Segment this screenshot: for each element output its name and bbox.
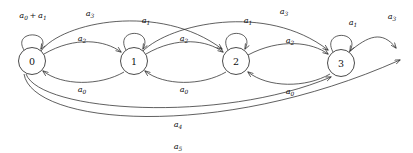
state-node-2[interactable]: 2 xyxy=(223,48,250,75)
self-loop-label-state-3: a1 xyxy=(349,17,358,28)
transition-label-0-to-2: a3 xyxy=(86,8,95,19)
state-label-0: 0 xyxy=(29,56,35,67)
exit-arrow-state-3-a3 xyxy=(349,37,396,52)
exit-label-state-3-a3: a3 xyxy=(388,11,397,22)
state-node-3[interactable]: 3 xyxy=(328,50,355,77)
self-loop-label-state-1: a1 xyxy=(142,15,151,26)
state-label-3: 3 xyxy=(338,58,344,69)
self-loop-label-state-0: a0 + a1 xyxy=(19,10,46,21)
transition-0-to-2 xyxy=(41,21,222,51)
transition-label-1-to-3: a3 xyxy=(280,6,289,17)
transition-2-to-1 xyxy=(145,71,226,82)
transition-label-1-to-0: a0 xyxy=(78,84,87,95)
exit-label-state-0-a5: a5 xyxy=(174,141,183,152)
transition-label-3-to-2: a0 xyxy=(286,86,295,97)
transition-1-to-3 xyxy=(143,22,328,51)
transition-label-2-to-3: a2 xyxy=(286,35,295,46)
state-transition-diagram: 0 1 2 3 a0 + a1 a1 a1 a1 a2 xyxy=(0,0,413,153)
transition-label-1-to-2: a2 xyxy=(180,33,189,44)
diagram-canvas: 0 1 2 3 a0 + a1 a1 a1 a1 a2 xyxy=(0,0,413,153)
state-label-1: 1 xyxy=(131,56,137,67)
transition-label-2-to-1: a0 xyxy=(180,84,189,95)
transition-1-to-0 xyxy=(43,71,124,82)
state-node-1[interactable]: 1 xyxy=(121,48,148,75)
transition-label-0-to-1: a2 xyxy=(78,33,87,44)
transition-2-to-3 xyxy=(248,44,328,55)
transition-label-0-to-3: a4 xyxy=(174,119,183,130)
state-node-0[interactable]: 0 xyxy=(19,48,46,75)
state-label-2: 2 xyxy=(233,56,239,67)
self-loop-label-state-2: a1 xyxy=(244,15,253,26)
